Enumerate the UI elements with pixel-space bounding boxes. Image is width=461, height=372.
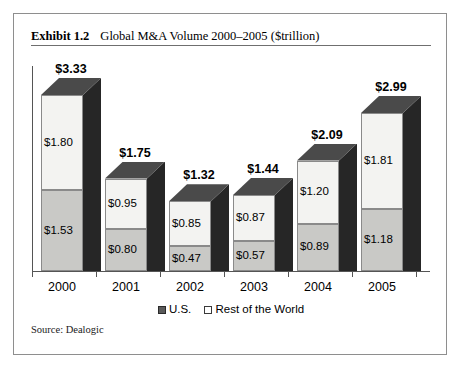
legend-swatch-outlined-square-icon — [204, 306, 212, 314]
x-axis-tick — [288, 272, 289, 277]
bar-total-label-2005: $2.99 — [361, 80, 421, 94]
legend-label-rest-of-world: Rest of the World — [215, 303, 304, 315]
bar-side-face — [147, 162, 165, 271]
bar-column-2001[interactable]: $0.95$0.80 — [105, 14, 165, 271]
bar-total-label-2001: $1.75 — [105, 146, 165, 160]
chart-legend: U.S. Rest of the World — [14, 302, 448, 315]
bar-side-face — [339, 144, 357, 271]
x-axis-line — [32, 271, 430, 272]
exhibit-container: Exhibit 1.2Global M&A Volume 2000–2005 (… — [13, 13, 447, 355]
bar-value-label-us-2002: $0.47 — [172, 253, 201, 265]
x-axis-label-2004: 2004 — [288, 280, 348, 294]
bar-value-label-us-2004: $0.89 — [300, 241, 329, 253]
bar-side-face — [83, 78, 101, 271]
bar-column-2003[interactable]: $0.87$0.57 — [233, 14, 293, 271]
source-note: Source: Dealogic — [31, 324, 104, 335]
bar-total-label-2004: $2.09 — [297, 128, 357, 142]
x-axis-label-2005: 2005 — [352, 280, 412, 294]
x-axis-label-2003: 2003 — [224, 280, 284, 294]
x-axis-tick — [96, 272, 97, 277]
legend-swatch-filled-square-icon — [158, 306, 166, 314]
x-axis-tick — [32, 272, 33, 277]
legend-item-us: U.S. — [158, 303, 191, 315]
bar-value-label-rest-of-world-2001: $0.95 — [108, 198, 137, 210]
bar-total-label-2003: $1.44 — [233, 162, 293, 176]
bar-value-label-us-2001: $0.80 — [108, 244, 137, 256]
bar-column-2000[interactable]: $1.80$1.53 — [41, 14, 101, 271]
x-axis-label-2002: 2002 — [160, 280, 220, 294]
bar-column-2002[interactable]: $0.85$0.47 — [169, 14, 229, 271]
y-axis-line — [32, 66, 33, 271]
bar-column-2004[interactable]: $1.20$0.89 — [297, 14, 357, 271]
bar-value-label-us-2005: $1.18 — [364, 234, 393, 246]
bar-column-2005[interactable]: $1.81$1.18 — [361, 14, 421, 271]
bar-value-label-us-2000: $1.53 — [44, 225, 73, 237]
bar-side-face — [403, 96, 421, 271]
bar-value-label-us-2003: $0.57 — [236, 250, 265, 262]
x-axis-tick — [224, 272, 225, 277]
x-axis-tick — [416, 272, 417, 277]
x-axis-label-2001: 2001 — [96, 280, 156, 294]
x-axis-tick — [352, 272, 353, 277]
bar-total-label-2002: $1.32 — [169, 168, 229, 182]
bar-value-label-rest-of-world-2000: $1.80 — [44, 137, 73, 149]
bar-value-label-rest-of-world-2004: $1.20 — [300, 186, 329, 198]
bar-value-label-rest-of-world-2005: $1.81 — [364, 155, 393, 167]
x-axis-label-2000: 2000 — [32, 280, 92, 294]
bar-value-label-rest-of-world-2002: $0.85 — [172, 218, 201, 230]
legend-item-rest-of-world: Rest of the World — [204, 303, 304, 315]
bar-value-label-rest-of-world-2003: $0.87 — [236, 212, 265, 224]
x-axis-tick — [160, 272, 161, 277]
bar-total-label-2000: $3.33 — [41, 62, 101, 76]
legend-label-us: U.S. — [169, 303, 191, 315]
